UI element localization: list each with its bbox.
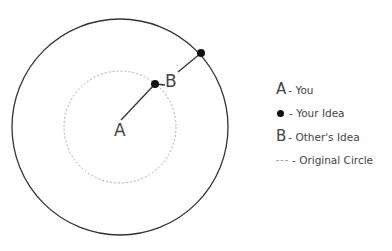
- legend-item-original-circle: - Original Circle: [276, 149, 373, 173]
- legend-item-your-idea: - Your Idea: [276, 102, 373, 126]
- legend-item-you: A - You: [276, 78, 373, 102]
- line-you-to-idea: [121, 84, 155, 120]
- legend-label: - Your Idea: [289, 107, 345, 119]
- legend-key-a: A: [276, 82, 286, 97]
- legend-label: - You: [288, 84, 313, 96]
- legend-label: - Other's Idea: [288, 131, 359, 143]
- your-idea-dot-inner: [151, 80, 159, 88]
- legend-key-b: B: [276, 129, 286, 144]
- filled-dot-icon: [277, 110, 284, 117]
- label-b-others-idea: B: [165, 71, 177, 91]
- legend: A - You - Your Idea B - Other's Idea - O…: [276, 78, 373, 172]
- legend-label: - Original Circle: [292, 154, 373, 166]
- legend-item-others-idea: B - Other's Idea: [276, 125, 373, 149]
- dashed-line-icon: [276, 160, 288, 161]
- your-idea-dot-outer: [197, 49, 205, 57]
- line-b-to-outer-idea: [178, 53, 201, 72]
- label-a-you: A: [114, 120, 126, 140]
